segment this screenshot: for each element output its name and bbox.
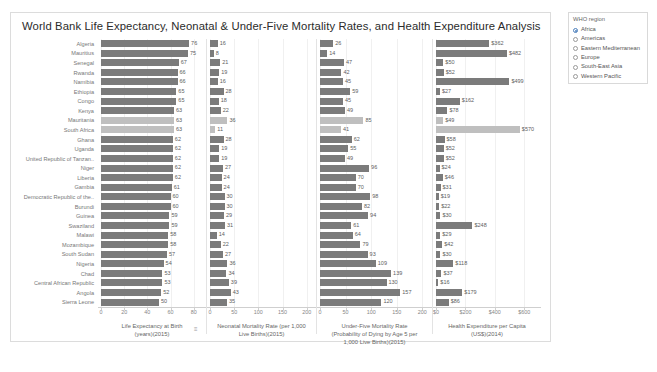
country-label[interactable]: Mauritania bbox=[68, 116, 94, 124]
chart-bar-row[interactable]: $499 bbox=[433, 77, 541, 86]
chart-bar[interactable] bbox=[101, 184, 172, 191]
chart-bar[interactable] bbox=[101, 136, 173, 143]
chart-bar-row[interactable]: $16 bbox=[433, 278, 541, 287]
chart-bar-row[interactable]: 39 bbox=[207, 278, 316, 287]
chart-bar-row[interactable]: 30 bbox=[207, 202, 316, 211]
chart-bar-row[interactable]: 21 bbox=[207, 58, 316, 67]
chart-bar-row[interactable]: $362 bbox=[433, 39, 541, 48]
chart-bar-row[interactable]: $52 bbox=[433, 68, 541, 77]
chart-bar-row[interactable]: 45 bbox=[317, 96, 432, 105]
country-label[interactable]: United Republic of Tanzan.. bbox=[26, 155, 94, 163]
chart-bar-row[interactable]: 57 bbox=[98, 250, 206, 259]
chart-bar-row[interactable]: 59 bbox=[98, 211, 206, 220]
chart-bar[interactable] bbox=[320, 174, 356, 181]
chart-bar[interactable] bbox=[210, 40, 218, 47]
chart-bar-row[interactable]: 75 bbox=[98, 49, 206, 58]
chart-bar[interactable] bbox=[320, 117, 363, 124]
chart-bar[interactable] bbox=[436, 145, 444, 152]
chart-bar-row[interactable]: 58 bbox=[98, 230, 206, 239]
chart-bar-row[interactable]: 26 bbox=[317, 39, 432, 48]
chart-bar[interactable] bbox=[101, 289, 161, 296]
chart-bar[interactable] bbox=[210, 117, 227, 124]
chart-bar-row[interactable]: $482 bbox=[433, 49, 541, 58]
radio-button-icon[interactable] bbox=[573, 65, 578, 70]
chart-bar[interactable] bbox=[320, 299, 381, 306]
chart-bar-row[interactable]: 62 bbox=[98, 135, 206, 144]
chart-bar[interactable] bbox=[320, 222, 351, 229]
chart-bar-row[interactable]: 11 bbox=[207, 125, 316, 134]
chart-bar-row[interactable]: 70 bbox=[317, 183, 432, 192]
chart-bar-row[interactable]: 29 bbox=[207, 211, 316, 220]
chart-bar[interactable] bbox=[101, 40, 189, 47]
chart-bar-row[interactable]: 14 bbox=[207, 230, 316, 239]
chart-bar-row[interactable]: $27 bbox=[433, 87, 541, 96]
chart-bar[interactable] bbox=[436, 289, 462, 296]
chart-bar[interactable] bbox=[436, 40, 489, 47]
country-label[interactable]: Rwanda bbox=[73, 69, 94, 77]
chart-bar[interactable] bbox=[210, 69, 219, 76]
chart-bar-row[interactable]: 62 bbox=[98, 173, 206, 182]
country-label[interactable]: Ethiopia bbox=[74, 88, 94, 96]
chart-bar-row[interactable]: $248 bbox=[433, 221, 541, 230]
chart-bar[interactable] bbox=[436, 78, 509, 85]
chart-bar-row[interactable]: $179 bbox=[433, 288, 541, 297]
chart-bar[interactable] bbox=[101, 165, 173, 172]
radio-button-icon[interactable] bbox=[573, 74, 578, 79]
chart-bar-row[interactable]: 70 bbox=[317, 173, 432, 182]
chart-bar-row[interactable]: 65 bbox=[98, 87, 206, 96]
chart-bar[interactable] bbox=[320, 126, 341, 133]
chart-bar[interactable] bbox=[101, 222, 169, 229]
chart-bar[interactable] bbox=[320, 59, 344, 66]
country-label[interactable]: Mozambique bbox=[62, 241, 94, 249]
chart-bar[interactable] bbox=[436, 279, 438, 286]
chart-bar-row[interactable]: 59 bbox=[98, 221, 206, 230]
chart-bar-row[interactable]: 22 bbox=[207, 106, 316, 115]
chart-bar[interactable] bbox=[436, 203, 439, 210]
chart-bar-row[interactable]: $30 bbox=[433, 250, 541, 259]
country-label[interactable]: Swaziland bbox=[69, 222, 95, 230]
chart-bar[interactable] bbox=[101, 98, 176, 105]
chart-bar[interactable] bbox=[101, 251, 167, 258]
chart-bar-row[interactable]: 27 bbox=[207, 163, 316, 172]
chart-bar-row[interactable]: 19 bbox=[207, 154, 316, 163]
chart-bar-row[interactable]: 28 bbox=[207, 135, 316, 144]
country-label[interactable]: Nigeria bbox=[76, 260, 94, 268]
chart-bar[interactable] bbox=[210, 155, 219, 162]
country-label[interactable]: Central African Republic bbox=[34, 279, 94, 287]
chart-bar-row[interactable]: 157 bbox=[317, 288, 432, 297]
chart-bar[interactable] bbox=[210, 222, 225, 229]
chart-bar[interactable] bbox=[210, 107, 221, 114]
chart-bar-row[interactable]: 96 bbox=[317, 163, 432, 172]
chart-bar[interactable] bbox=[436, 251, 440, 258]
chart-bar-row[interactable]: 16 bbox=[207, 39, 316, 48]
chart-bar-row[interactable]: 67 bbox=[98, 58, 206, 67]
chart-bar-row[interactable]: 28 bbox=[207, 87, 316, 96]
chart-bar-row[interactable]: 24 bbox=[207, 183, 316, 192]
chart-bar-row[interactable]: $19 bbox=[433, 192, 541, 201]
chart-bar[interactable] bbox=[101, 145, 173, 152]
chart-bar[interactable] bbox=[320, 270, 391, 277]
chart-bar[interactable] bbox=[320, 40, 333, 47]
legend-item-africa[interactable]: Africa bbox=[573, 26, 647, 35]
legend-item-americas[interactable]: Americas bbox=[573, 35, 647, 44]
chart-bar-row[interactable]: 85 bbox=[317, 116, 432, 125]
chart-bar[interactable] bbox=[436, 222, 472, 229]
chart-bar[interactable] bbox=[210, 193, 225, 200]
chart-bar-row[interactable]: 8 bbox=[207, 49, 316, 58]
chart-bar[interactable] bbox=[210, 203, 225, 210]
country-label[interactable]: Mauritius bbox=[71, 49, 94, 57]
chart-bar[interactable] bbox=[101, 212, 169, 219]
chart-bar-row[interactable]: $52 bbox=[433, 154, 541, 163]
chart-bar[interactable] bbox=[210, 174, 222, 181]
chart-bar-row[interactable]: 61 bbox=[317, 221, 432, 230]
chart-bar-row[interactable]: 58 bbox=[98, 240, 206, 249]
legend-item-europe[interactable]: Europe bbox=[573, 54, 647, 63]
country-label[interactable]: Gambia bbox=[74, 183, 94, 191]
chart-bar-row[interactable]: 52 bbox=[98, 288, 206, 297]
country-label[interactable]: Kenya bbox=[78, 107, 94, 115]
chart-bar[interactable] bbox=[101, 155, 173, 162]
radio-button-icon[interactable] bbox=[573, 55, 578, 60]
chart-bar[interactable] bbox=[320, 241, 360, 248]
chart-bar-row[interactable]: 79 bbox=[317, 240, 432, 249]
chart-bar[interactable] bbox=[210, 212, 224, 219]
